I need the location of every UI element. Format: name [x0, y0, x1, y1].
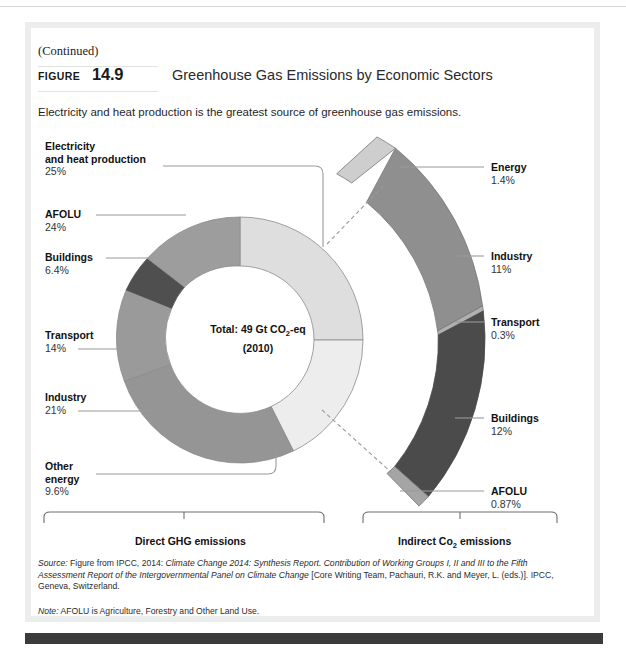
- label-buildings-right-line1: Buildings: [491, 412, 539, 425]
- donut-center-line1: Total: 49 Gt CO2-eq: [178, 322, 338, 341]
- continued-text: (Continued): [38, 44, 98, 59]
- label-industry-left: Industry 21%: [45, 391, 86, 417]
- label-transport-right-pct: 0.3%: [491, 329, 539, 342]
- label-transport-right-line1: Transport: [491, 316, 539, 329]
- label-electricity-line2: and heat production: [45, 153, 146, 166]
- figure-number: 14.9: [92, 65, 123, 84]
- label-afolu-right-pct: 0.87%: [491, 498, 527, 511]
- donut-center-label: Total: 49 Gt CO2-eq (2010): [178, 322, 338, 355]
- figure-label: FIGURE: [38, 70, 80, 82]
- note-text: Note: AFOLU is Agriculture, Forestry and…: [38, 606, 563, 618]
- label-industry-left-pct: 21%: [45, 404, 86, 417]
- label-electricity: Electricity and heat production 25%: [45, 140, 146, 178]
- source-text-1: Figure from IPCC, 2014:: [68, 558, 166, 568]
- label-afolu-left-line1: AFOLU: [45, 208, 81, 221]
- label-other-energy-pct: 9.6%: [45, 485, 79, 498]
- label-transport-right: Transport 0.3%: [491, 316, 539, 342]
- label-buildings-right: Buildings 12%: [491, 412, 539, 438]
- note-body: AFOLU is Agriculture, Forestry and Other…: [59, 606, 260, 616]
- label-industry-right-pct: 11%: [491, 263, 532, 276]
- label-buildings-right-pct: 12%: [491, 425, 539, 438]
- figure-title: Greenhouse Gas Emissions by Economic Sec…: [172, 67, 493, 83]
- label-afolu-right: AFOLU 0.87%: [491, 485, 527, 511]
- brace-label-direct: Direct GHG emissions: [135, 535, 246, 547]
- label-afolu-right-line1: AFOLU: [491, 485, 527, 498]
- brace-label-indirect-post: emissions: [457, 535, 511, 547]
- label-afolu-left: AFOLU 24%: [45, 208, 81, 234]
- label-transport-left-pct: 14%: [45, 342, 93, 355]
- label-energy-right: Energy 1.4%: [491, 161, 527, 187]
- source-text: Source: Figure from IPCC, 2014: Climate …: [38, 558, 563, 593]
- label-electricity-pct: 25%: [45, 165, 146, 178]
- label-industry-right-line1: Industry: [491, 250, 532, 263]
- top-divider: [0, 6, 626, 7]
- label-afolu-left-pct: 24%: [45, 221, 81, 234]
- note-label: Note:: [38, 606, 59, 616]
- figure-page: (Continued) FIGURE 14.9 Greenhouse Gas E…: [0, 0, 626, 649]
- label-other-energy: Other energy 9.6%: [45, 460, 79, 498]
- label-industry-right: Industry 11%: [491, 250, 532, 276]
- donut-center-line1-post: -eq: [290, 323, 306, 335]
- label-energy-right-pct: 1.4%: [491, 174, 527, 187]
- label-energy-right-line1: Energy: [491, 161, 527, 174]
- donut-center-line1-pre: Total: 49 Gt CO: [210, 323, 286, 335]
- label-buildings-left-pct: 6.4%: [45, 264, 93, 277]
- label-transport-left-line1: Transport: [45, 329, 93, 342]
- source-label: Source:: [38, 558, 68, 568]
- label-transport-left: Transport 14%: [45, 329, 93, 355]
- label-industry-left-line1: Industry: [45, 391, 86, 404]
- brace-label-indirect-pre: Indirect Co: [398, 535, 453, 547]
- label-electricity-line1: Electricity: [45, 140, 146, 153]
- label-buildings-left: Buildings 6.4%: [45, 251, 93, 277]
- label-other-energy-line2: energy: [45, 473, 79, 486]
- donut-center-line2: (2010): [178, 341, 338, 355]
- label-buildings-left-line1: Buildings: [45, 251, 93, 264]
- figure-subtitle: Electricity and heat production is the g…: [38, 106, 461, 118]
- bottom-bar: [25, 633, 603, 644]
- figure-label-rule-bottom: [38, 91, 158, 92]
- brace-label-indirect: Indirect Co2 emissions: [398, 535, 511, 550]
- label-other-energy-line1: Other: [45, 460, 79, 473]
